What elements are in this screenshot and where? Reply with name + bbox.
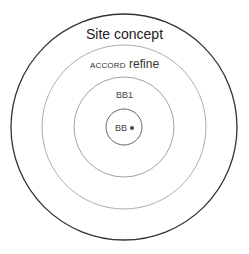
label-refine: refine [129,57,159,71]
label-bb: BB [0,123,249,133]
label-bb1: BB1 [0,90,249,100]
label-accord: ACCORD [90,61,126,70]
bullet-marker-icon [130,126,134,130]
label-bb-text: BB [115,123,127,133]
label-site-concept: Site concept [0,26,249,42]
label-accord-refine: ACCORD refine [0,57,249,71]
